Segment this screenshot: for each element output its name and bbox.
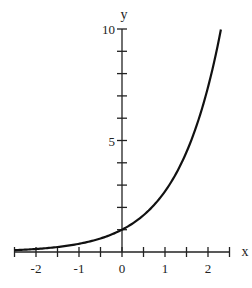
x-tick-label: 1: [162, 261, 169, 276]
axis-labels: -2-1012x510y: [31, 7, 249, 276]
x-tick-label: 0: [119, 261, 126, 276]
x-tick-label: -1: [74, 261, 85, 276]
y-tick-label: 10: [102, 22, 115, 37]
x-tick-label: -2: [31, 261, 42, 276]
axes: [15, 29, 230, 257]
y-tick-label: 5: [109, 134, 116, 149]
x-tick-label: 2: [205, 261, 212, 276]
y-axis-label: y: [121, 7, 128, 22]
x-axis-label: x: [242, 244, 249, 259]
exponential-chart: -2-1012x510y: [0, 0, 252, 288]
